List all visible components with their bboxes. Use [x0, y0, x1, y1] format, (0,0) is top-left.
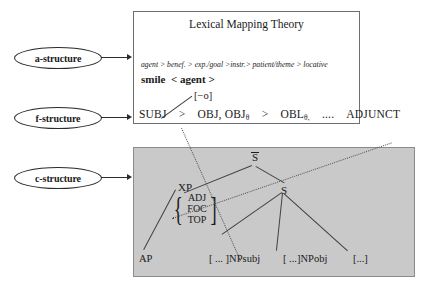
arrow-f-structure-line — [101, 117, 128, 118]
predicate-name: smile — [141, 73, 165, 85]
lmt-title: Lexical Mapping Theory — [134, 18, 359, 30]
intrinsic-feature: [−o] — [194, 90, 212, 101]
set-item-top: TOP — [187, 214, 206, 225]
gf-adjunct: ADJUNCT — [346, 108, 400, 120]
tree-leaf-npsubj: [ ... ]NPsubj — [209, 253, 260, 264]
argument-list: < agent > — [171, 73, 215, 85]
gf-obl: OBLθ, — [280, 108, 309, 122]
level-label-f-structure-text: f-structure — [36, 113, 81, 124]
arrow-c-structure-line — [101, 177, 128, 178]
gf-subj: SUBJ — [139, 108, 167, 120]
level-label-a-structure-text: a-structure — [35, 53, 81, 64]
gf-obj: OBJ, OBJθ — [198, 108, 250, 122]
tree-leaf-npobj: [ ...]NPobj — [283, 253, 327, 264]
gf-separator-1: > — [179, 108, 186, 120]
tree-node-sbar-label: S — [252, 151, 258, 163]
set-open-brace: { — [174, 194, 183, 224]
level-label-c-structure: c-structure — [14, 167, 102, 189]
predicate-argument-structure: smile < agent > — [141, 73, 215, 85]
thematic-hierarchy: agent > benef. > exp./goal >instr.> pati… — [141, 60, 328, 69]
gf-separator-2: > — [262, 108, 269, 120]
arrow-f-structure-head — [127, 114, 132, 120]
gf-obl-subscript: θ, — [304, 113, 310, 122]
gf-obj-subscript: θ — [246, 113, 250, 122]
level-label-a-structure: a-structure — [14, 47, 102, 69]
level-label-c-structure-text: c-structure — [35, 173, 81, 184]
set-item-adj: ADJ — [187, 192, 206, 203]
grammatical-function-hierarchy: SUBJ > OBJ, OBJθ > OBLθ, .... ADJUNCT — [139, 108, 400, 122]
level-label-f-structure: f-structure — [14, 107, 102, 129]
arrow-c-structure-head — [127, 174, 132, 180]
tree-leaf-ap: AP — [139, 253, 152, 264]
tree-leaf-etc: [...] — [353, 253, 368, 264]
tree-node-sbar: S — [247, 152, 263, 163]
arrow-a-structure-head — [127, 54, 132, 60]
arrow-a-structure-line — [101, 57, 128, 58]
lfg-architecture-figure: a-structure f-structure c-structure Lexi… — [0, 0, 421, 288]
gf-ellipsis: .... — [322, 108, 334, 120]
